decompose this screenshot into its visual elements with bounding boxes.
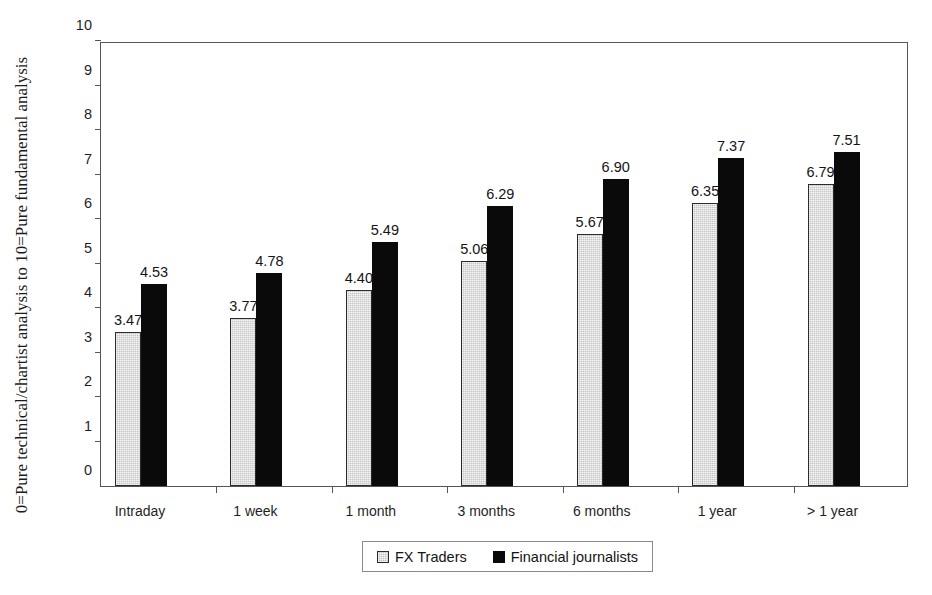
bar — [577, 234, 603, 486]
legend-label: FX Traders — [395, 549, 467, 565]
bar-value-label: 4.78 — [255, 253, 283, 269]
bar-value-label: 5.67 — [576, 214, 604, 230]
x-axis-category-label: 3 months — [457, 503, 515, 519]
chart-screenshot: 0=Pure technical/chartist analysis to 10… — [0, 0, 932, 595]
x-axis-tick-mark — [216, 486, 217, 493]
bar — [692, 203, 718, 486]
y-axis-tick-label: 0 — [57, 462, 101, 478]
x-axis-tick-mark — [794, 486, 795, 493]
bar-value-label: 5.49 — [371, 222, 399, 238]
bar — [141, 284, 167, 486]
bar — [718, 158, 744, 486]
y-axis-tick-label: 8 — [57, 106, 101, 122]
bar — [461, 261, 487, 486]
y-axis-tick-mark — [95, 396, 101, 397]
legend-swatch-icon — [377, 551, 389, 563]
y-axis-tick-label: 7 — [57, 151, 101, 167]
bar-value-label: 4.53 — [140, 264, 168, 280]
bar — [115, 332, 141, 486]
bar-value-label: 7.37 — [717, 138, 745, 154]
bar — [230, 318, 256, 486]
y-axis-tick-label: 3 — [57, 329, 101, 345]
y-axis-tick-mark — [95, 218, 101, 219]
bar-value-label: 6.35 — [691, 183, 719, 199]
y-axis-tick-mark — [95, 307, 101, 308]
legend-entry: Financial journalists — [493, 549, 638, 565]
y-axis-tick-mark — [95, 352, 101, 353]
x-axis-category-label: 1 year — [698, 503, 737, 519]
x-axis-tick-mark — [447, 486, 448, 493]
y-axis-tick-label: 5 — [57, 240, 101, 256]
y-axis-tick-label: 9 — [57, 62, 101, 78]
bar-value-label: 3.47 — [114, 312, 142, 328]
bar — [256, 273, 282, 486]
y-axis-tick-mark — [95, 85, 101, 86]
x-axis-category-label: 6 months — [573, 503, 631, 519]
y-axis-tick-label: 2 — [57, 373, 101, 389]
bar — [346, 290, 372, 486]
chart-legend: FX TradersFinancial journalists — [362, 541, 653, 572]
y-axis-tick-label: 1 — [57, 418, 101, 434]
bar — [372, 242, 398, 486]
x-axis-category-label: 1 month — [346, 503, 397, 519]
plot-area: 012345678910 3.473.774.405.065.676.356.7… — [100, 42, 908, 487]
bar-value-label: 6.79 — [806, 164, 834, 180]
bar — [808, 184, 834, 486]
x-axis-category-label: > 1 year — [807, 503, 858, 519]
bar-value-label: 6.29 — [486, 186, 514, 202]
bar — [487, 206, 513, 486]
bar-value-label: 6.90 — [602, 159, 630, 175]
y-axis-tick-mark — [95, 129, 101, 130]
x-axis-category-label: Intraday — [115, 503, 166, 519]
y-axis-tick-mark — [95, 441, 101, 442]
bar — [834, 152, 860, 486]
bar-value-label: 7.51 — [832, 132, 860, 148]
y-axis-tick-mark — [95, 40, 101, 41]
y-axis-tick-mark — [95, 263, 101, 264]
x-axis-tick-mark — [332, 486, 333, 493]
x-axis-category-label: 1 week — [233, 503, 277, 519]
y-axis-tick-label: 10 — [57, 17, 101, 33]
y-axis-tick-mark — [95, 174, 101, 175]
bar — [603, 179, 629, 486]
legend-swatch-icon — [493, 551, 505, 563]
bar-value-label: 3.77 — [229, 298, 257, 314]
y-axis-title: 0=Pure technical/chartist analysis to 10… — [12, 15, 32, 555]
y-axis-tick-label: 6 — [57, 195, 101, 211]
x-axis-tick-mark — [563, 486, 564, 493]
bar-value-label: 4.40 — [345, 270, 373, 286]
y-axis-tick-label: 4 — [57, 284, 101, 300]
legend-label: Financial journalists — [511, 549, 638, 565]
x-axis-tick-mark — [678, 486, 679, 493]
bar-value-label: 5.06 — [460, 241, 488, 257]
legend-entry: FX Traders — [377, 549, 467, 565]
